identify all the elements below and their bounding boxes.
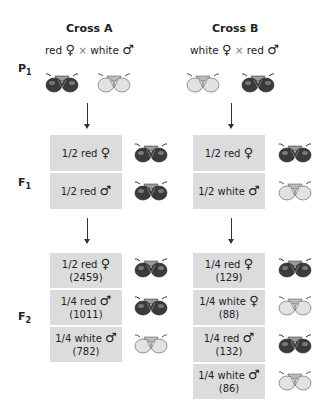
box-fraction: 1/4 red	[205, 259, 241, 270]
generation-f1-label: F1	[18, 176, 31, 191]
f1-b-box-1: 1/2 red ♀	[193, 135, 265, 171]
arrow-down-icon	[87, 218, 88, 240]
gen-sub: 1	[26, 68, 32, 77]
box-count: (129)	[193, 271, 265, 284]
cross-a-parents: red ♀ × white ♂	[45, 42, 134, 57]
female-symbol-icon: ♀	[66, 42, 76, 57]
fly-red-eye-icon	[241, 72, 275, 94]
f1-b-box-2: 1/2 white ♂	[193, 173, 265, 209]
box-count: (132)	[193, 345, 265, 358]
arrow-down-icon	[87, 103, 88, 125]
box-count: (1011)	[50, 308, 122, 321]
box-fraction: 1/2 red	[62, 148, 98, 159]
box-count: (2459)	[50, 271, 122, 284]
male-symbol-icon: ♂	[100, 183, 112, 198]
male-symbol-icon: ♂	[248, 367, 260, 382]
fly-red-eye-icon	[134, 142, 168, 164]
box-fraction: 1/4 red	[61, 296, 97, 307]
gen-sub: 2	[26, 316, 32, 325]
box-fraction: 1/4 white	[199, 296, 246, 307]
male-symbol-icon: ♂	[267, 42, 279, 57]
gen-letter: F	[18, 310, 26, 323]
fly-red-eye-icon	[278, 142, 312, 164]
parent-female-phenotype: white	[190, 44, 219, 56]
f2-a-box-2: 1/4 red ♂(1011)	[50, 290, 122, 325]
parent-male-phenotype: white	[90, 44, 119, 56]
female-symbol-icon: ♀	[222, 42, 232, 57]
box-fraction: 1/2 white	[198, 186, 245, 197]
gen-letter: P	[18, 62, 26, 75]
box-fraction: 1/2 red	[205, 148, 241, 159]
fly-white-eye-icon	[278, 180, 312, 202]
gen-sub: 1	[26, 182, 32, 191]
male-symbol-icon: ♂	[105, 330, 117, 345]
fly-white-eye-icon	[134, 333, 168, 355]
cross-symbol-icon: ×	[235, 45, 243, 56]
female-symbol-icon: ♀	[244, 256, 254, 271]
fly-red-eye-icon	[45, 72, 79, 94]
fly-red-eye-icon	[134, 257, 168, 279]
box-fraction: 1/4 white	[198, 370, 245, 381]
f2-a-box-1: 1/2 red ♀(2459)	[50, 253, 122, 288]
generation-p1-label: P1	[18, 62, 32, 77]
gen-letter: F	[18, 176, 26, 189]
male-phenotype: red	[247, 44, 264, 56]
cross-b-parents: white ♀ × red ♂	[190, 42, 279, 57]
arrow-down-icon	[231, 218, 232, 240]
box-count: (88)	[193, 308, 265, 321]
male-symbol-icon: ♂	[248, 183, 260, 198]
box-count: (86)	[193, 382, 265, 395]
box-fraction: 1/4 white	[55, 333, 102, 344]
female-symbol-icon: ♀	[101, 256, 111, 271]
cross-b-title: Cross B	[212, 22, 258, 35]
female-symbol-icon: ♀	[101, 145, 111, 160]
f2-a-box-3: 1/4 white ♂(782)	[50, 327, 122, 362]
fly-red-eye-icon	[134, 180, 168, 202]
box-count: (782)	[50, 345, 122, 358]
box-fraction: 1/2 red	[62, 259, 98, 270]
female-symbol-icon: ♀	[244, 145, 254, 160]
fly-red-eye-icon	[134, 295, 168, 317]
arrow-down-icon	[231, 103, 232, 125]
f1-a-box-1: 1/2 red ♀	[50, 135, 122, 171]
fly-red-eye-icon	[278, 257, 312, 279]
cross-a-title: Cross A	[66, 22, 113, 35]
box-fraction: 1/2 red	[61, 186, 97, 197]
generation-f2-label: F2	[18, 310, 31, 325]
fly-red-eye-icon	[278, 333, 312, 355]
parent-female-phenotype: red	[45, 44, 62, 56]
male-symbol-icon: ♂	[243, 330, 255, 345]
fly-white-eye-icon	[278, 295, 312, 317]
fly-white-eye-icon	[97, 72, 131, 94]
box-fraction: 1/4 red	[204, 333, 240, 344]
f2-b-box-3: 1/4 red ♂(132)	[193, 327, 265, 362]
cross-symbol-icon: ×	[78, 45, 86, 56]
f2-b-box-4: 1/4 white ♂(86)	[193, 364, 265, 399]
male-symbol-icon: ♂	[100, 293, 112, 308]
f1-a-box-2: 1/2 red ♂	[50, 173, 122, 209]
male-symbol-icon: ♂	[122, 42, 134, 57]
female-symbol-icon: ♀	[249, 293, 259, 308]
fly-white-eye-icon	[278, 370, 312, 392]
f2-b-box-1: 1/4 red ♀(129)	[193, 253, 265, 288]
fly-white-eye-icon	[186, 72, 220, 94]
f2-b-box-2: 1/4 white ♀(88)	[193, 290, 265, 325]
